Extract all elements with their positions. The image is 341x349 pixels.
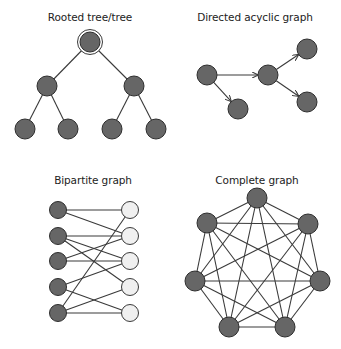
complete-edge bbox=[229, 281, 320, 327]
bipartite-right-node bbox=[122, 305, 139, 322]
tree-node bbox=[102, 119, 122, 139]
bipartite-right-node bbox=[122, 279, 139, 296]
bipartite-left-node bbox=[50, 279, 67, 296]
tree-node bbox=[124, 76, 144, 96]
dag-node bbox=[258, 65, 278, 85]
dag-arrow-edge bbox=[276, 81, 298, 96]
complete-edge bbox=[195, 224, 308, 281]
complete-node bbox=[197, 213, 217, 233]
tree-node bbox=[15, 119, 35, 139]
directed-acyclic-graph bbox=[197, 39, 317, 119]
dag-node bbox=[228, 99, 248, 119]
complete-node bbox=[310, 271, 330, 291]
bipartite-right-node bbox=[122, 253, 139, 270]
tree-node bbox=[37, 76, 57, 96]
rooted-tree bbox=[15, 30, 166, 140]
tree-node bbox=[58, 119, 78, 139]
bipartite-left-node bbox=[50, 305, 67, 322]
bipartite-edge bbox=[58, 210, 130, 236]
complete-node bbox=[219, 317, 239, 337]
tree-node bbox=[146, 119, 166, 139]
complete-edge bbox=[207, 223, 308, 224]
dag-arrow-edge bbox=[276, 55, 298, 70]
dag-node bbox=[297, 39, 317, 59]
complete-node bbox=[275, 317, 295, 337]
bipartite-edge bbox=[58, 261, 130, 287]
complete-node bbox=[247, 188, 267, 208]
dag-arrow-edge bbox=[214, 82, 231, 101]
complete-node bbox=[298, 214, 318, 234]
bipartite-right-node bbox=[122, 202, 139, 219]
bipartite-left-node bbox=[50, 253, 67, 270]
complete-node bbox=[185, 271, 205, 291]
dag-node bbox=[197, 65, 217, 85]
bipartite-right-node bbox=[122, 228, 139, 245]
bipartite-graph bbox=[50, 202, 139, 322]
bipartite-left-node bbox=[50, 202, 67, 219]
dag-node bbox=[297, 92, 317, 112]
bipartite-left-node bbox=[50, 228, 67, 245]
diagram-canvas bbox=[0, 0, 341, 349]
tree-root-node bbox=[80, 32, 100, 52]
complete-edge bbox=[195, 281, 285, 327]
complete-graph bbox=[185, 188, 330, 337]
